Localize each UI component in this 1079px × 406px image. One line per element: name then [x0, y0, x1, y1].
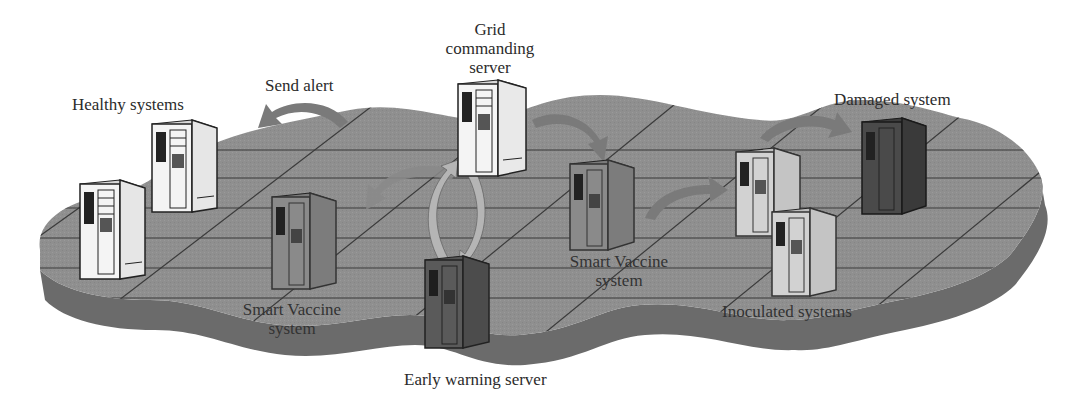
label-early-warning-server: Early warning server — [404, 370, 547, 389]
label-sv-center-line1: Smart Vaccine — [555, 252, 683, 271]
healthy-server-2 — [152, 120, 217, 212]
label-grid-line2: commanding — [440, 39, 540, 58]
smart-vaccine-server-left — [272, 193, 336, 289]
damaged-server — [862, 118, 926, 214]
label-smart-vaccine-left: Smart Vaccine system — [228, 300, 356, 338]
label-sv-left-line2: system — [228, 319, 356, 338]
label-smart-vaccine-center: Smart Vaccine system — [555, 252, 683, 290]
label-send-alert: Send alert — [265, 76, 333, 95]
label-sv-center-line2: system — [555, 271, 683, 290]
smart-vaccine-server-center — [570, 160, 634, 250]
label-healthy-systems: Healthy systems — [72, 95, 184, 114]
inoculated-server-2 — [772, 208, 836, 296]
grid-commanding-server — [458, 80, 526, 176]
label-inoculated-systems: Inoculated systems — [722, 302, 852, 321]
label-damaged-system: Damaged system — [834, 90, 951, 109]
early-warning-server — [425, 256, 489, 348]
label-sv-left-line1: Smart Vaccine — [228, 300, 356, 319]
label-grid-commanding-server: Grid commanding server — [440, 20, 540, 77]
label-grid-line1: Grid — [440, 20, 540, 39]
smart-vaccine-grid-diagram: Healthy systems Send alert Grid commandi… — [0, 0, 1079, 406]
label-grid-line3: server — [440, 58, 540, 77]
healthy-server-1 — [80, 180, 145, 279]
